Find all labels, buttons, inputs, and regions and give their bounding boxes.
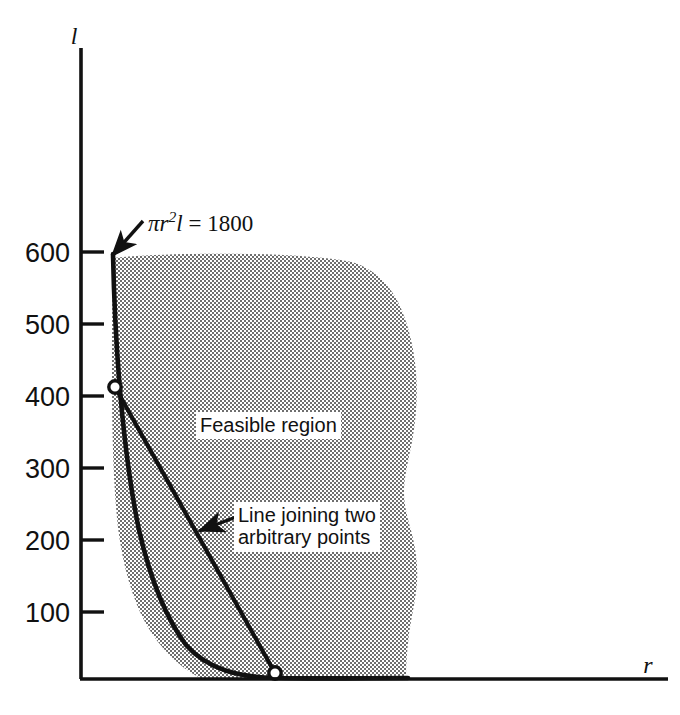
figure-container: 600 500 400 300 200 100 l r πr2l = 1800 … [0, 0, 680, 715]
y-tick-label-100: 100 [25, 598, 70, 628]
y-tick-label-200: 200 [25, 526, 70, 556]
chord-label-line-1: Line joining two [238, 504, 376, 526]
feasible-region-label: Feasible region [196, 412, 341, 439]
chord-label-line-2: arbitrary points [238, 526, 376, 548]
feasible-region-plot: 600 500 400 300 200 100 l r [0, 0, 680, 715]
y-tick-label-300: 300 [25, 454, 70, 484]
x-axis-label: r [643, 652, 653, 678]
y-axis-ticks [81, 252, 104, 612]
y-tick-label-500: 500 [25, 310, 70, 340]
chord-label: Line joining two arbitrary points [234, 502, 380, 552]
constraint-equals-value: = 1800 [188, 211, 253, 236]
constraint-equation-label: πr2l = 1800 [148, 208, 253, 236]
arbitrary-point-marker-1 [109, 381, 121, 393]
constraint-arrow [112, 221, 143, 256]
constraint-pi-symbol: π [148, 211, 160, 236]
y-axis-tick-labels: 600 500 400 300 200 100 [25, 238, 70, 628]
y-axis-label: l [71, 23, 78, 49]
y-tick-label-600: 600 [25, 238, 70, 268]
constraint-l-symbol: l [176, 211, 182, 236]
y-tick-label-400: 400 [25, 382, 70, 412]
